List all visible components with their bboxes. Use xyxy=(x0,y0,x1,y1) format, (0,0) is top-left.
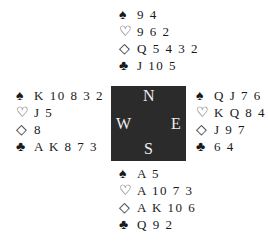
east-diamonds-cards: J 9 7 xyxy=(214,121,246,138)
west-clubs: ♣A K 8 7 3 xyxy=(16,138,104,155)
compass-south: S xyxy=(144,140,153,158)
compass-box: N W E S xyxy=(111,86,186,161)
diamond-icon: ◇ xyxy=(196,121,214,138)
south-clubs-cards: Q 9 2 xyxy=(137,216,173,233)
heart-icon: ♡ xyxy=(119,23,137,40)
south-hearts-cards: A 10 7 3 xyxy=(137,182,193,199)
club-icon: ♣ xyxy=(119,57,137,74)
diamond-icon: ◇ xyxy=(119,40,137,57)
south-hearts: ♡A 10 7 3 xyxy=(119,182,196,199)
north-diamonds: ◇Q 5 4 3 2 xyxy=(119,40,199,57)
diamond-icon: ◇ xyxy=(119,199,137,216)
west-spades-cards: K 10 8 3 2 xyxy=(34,87,104,104)
north-diamonds-cards: Q 5 4 3 2 xyxy=(137,40,199,57)
north-hearts: ♡9 6 2 xyxy=(119,23,199,40)
north-hand: ♠9 4 ♡9 6 2 ◇Q 5 4 3 2 ♣J 10 5 xyxy=(119,6,199,74)
north-clubs-cards: J 10 5 xyxy=(137,57,177,74)
east-hearts: ♡K Q 8 4 xyxy=(196,104,266,121)
east-hearts-cards: K Q 8 4 xyxy=(214,104,266,121)
east-spades-cards: Q J 7 6 xyxy=(214,87,262,104)
east-diamonds: ◇J 9 7 xyxy=(196,121,266,138)
compass-west: W xyxy=(116,115,131,133)
spade-icon: ♠ xyxy=(16,87,34,104)
east-clubs: ♣6 4 xyxy=(196,138,266,155)
diamond-icon: ◇ xyxy=(16,121,34,138)
west-hearts-cards: J 5 xyxy=(34,104,53,121)
west-spades: ♠K 10 8 3 2 xyxy=(16,87,104,104)
club-icon: ♣ xyxy=(119,216,137,233)
north-spades-cards: 9 4 xyxy=(137,6,158,23)
west-diamonds-cards: 8 xyxy=(34,121,42,138)
west-diamonds: ◇8 xyxy=(16,121,104,138)
heart-icon: ♡ xyxy=(196,104,214,121)
heart-icon: ♡ xyxy=(16,104,34,121)
west-hand: ♠K 10 8 3 2 ♡J 5 ◇8 ♣A K 8 7 3 xyxy=(16,87,104,155)
spade-icon: ♠ xyxy=(119,165,137,182)
east-clubs-cards: 6 4 xyxy=(214,138,235,155)
north-spades: ♠9 4 xyxy=(119,6,199,23)
heart-icon: ♡ xyxy=(119,182,137,199)
east-spades: ♠Q J 7 6 xyxy=(196,87,266,104)
compass-east: E xyxy=(171,115,181,133)
south-spades: ♠A 5 xyxy=(119,165,196,182)
club-icon: ♣ xyxy=(16,138,34,155)
club-icon: ♣ xyxy=(196,138,214,155)
west-hearts: ♡J 5 xyxy=(16,104,104,121)
north-clubs: ♣J 10 5 xyxy=(119,57,199,74)
compass-north: N xyxy=(143,87,155,105)
south-hand: ♠A 5 ♡A 10 7 3 ◇A K 10 6 ♣Q 9 2 xyxy=(119,165,196,233)
south-diamonds-cards: A K 10 6 xyxy=(137,199,196,216)
south-clubs: ♣Q 9 2 xyxy=(119,216,196,233)
south-spades-cards: A 5 xyxy=(137,165,160,182)
east-hand: ♠Q J 7 6 ♡K Q 8 4 ◇J 9 7 ♣6 4 xyxy=(196,87,266,155)
north-hearts-cards: 9 6 2 xyxy=(137,23,171,40)
spade-icon: ♠ xyxy=(119,6,137,23)
west-clubs-cards: A K 8 7 3 xyxy=(34,138,98,155)
spade-icon: ♠ xyxy=(196,87,214,104)
south-diamonds: ◇A K 10 6 xyxy=(119,199,196,216)
